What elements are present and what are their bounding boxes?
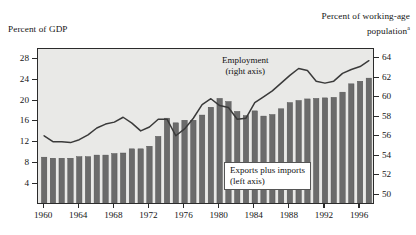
left-tick-mark [32,100,37,101]
left-tick-label-28: 28 [7,53,29,63]
x-tick-label-1968: 1968 [93,210,133,220]
right-tick-mark [374,174,379,175]
x-tick-label-1976: 1976 [164,210,204,220]
right-tick-mark [374,155,379,156]
right-tick-mark [374,194,379,195]
plot-svg [38,49,374,204]
left-tick-mark [32,162,37,163]
bar [68,158,73,204]
bar [217,98,222,204]
legend-employment: Employment (right axis) [222,55,269,76]
bar [366,78,371,204]
bar [270,115,275,204]
legend-employment-line1: Employment [222,55,269,66]
right-tick-mark [374,96,379,97]
right-tick-label-62: 62 [382,72,404,82]
x-tick-label-1972: 1972 [128,210,168,220]
left-tick-mark [32,141,37,142]
bar [261,116,266,204]
bar [120,153,125,204]
right-tick-label-56: 56 [382,130,404,140]
bar [182,120,187,204]
bar [77,157,82,204]
x-tick-label-1964: 1964 [58,210,98,220]
left-tick-label-16: 16 [7,115,29,125]
bar [112,154,117,204]
left-tick-label-12: 12 [7,136,29,146]
right-tick-mark [374,135,379,136]
plot-area [37,48,374,204]
left-tick-label-8: 8 [7,157,29,167]
bar [85,157,90,204]
x-tick-mark [323,204,324,208]
x-tick-mark [43,204,44,208]
bar [59,158,64,204]
bar [243,116,248,204]
legend-exports-line2: (left axis) [230,176,305,187]
bar [322,98,327,204]
left-tick-mark [32,120,37,121]
right-tick-label-54: 54 [382,150,404,160]
footnote-marker: a [407,25,410,31]
left-tick-mark [32,183,37,184]
employment-line [44,61,369,143]
bar [103,155,108,204]
bar [147,146,152,204]
x-tick-mark [113,204,114,208]
x-tick-mark [358,204,359,208]
right-tick-label-60: 60 [382,91,404,101]
right-tick-label-50: 50 [382,189,404,199]
right-tick-label-52: 52 [382,169,404,179]
x-tick-mark [183,204,184,208]
bar [199,115,204,204]
bar [41,157,46,204]
bar [340,92,345,204]
left-axis-title: Percent of GDP [8,24,68,34]
bar [138,149,143,204]
bar [156,136,161,204]
bar [331,97,336,204]
bar [50,158,55,204]
x-tick-label-1960: 1960 [23,210,63,220]
x-tick-mark [148,204,149,208]
x-tick-mark [78,204,79,208]
left-tick-label-20: 20 [7,95,29,105]
bar [208,107,213,204]
left-tick-label-4: 4 [7,178,29,188]
bar [313,98,318,204]
right-tick-label-58: 58 [382,111,404,121]
right-axis-title: Percent of working-age populationa [322,11,410,37]
right-axis-title-line1: Percent of working-age [322,11,410,21]
bar [252,111,257,204]
x-tick-label-1996: 1996 [339,210,379,220]
right-tick-mark [374,57,379,58]
x-tick-label-1992: 1992 [304,210,344,220]
legend-exports: Exports plus imports (left axis) [224,162,311,190]
bar [191,120,196,204]
left-tick-mark [32,58,37,59]
x-tick-mark [253,204,254,208]
bar [235,111,240,204]
bar [349,84,354,204]
bar [164,118,169,204]
x-tick-label-1980: 1980 [199,210,239,220]
x-tick-label-1984: 1984 [234,210,274,220]
right-tick-label-64: 64 [382,52,404,62]
right-tick-mark [374,116,379,117]
legend-exports-line1: Exports plus imports [230,165,305,176]
bar [357,81,362,204]
bar [94,155,99,204]
left-tick-label-24: 24 [7,74,29,84]
left-tick-mark [32,79,37,80]
x-tick-label-1988: 1988 [269,210,309,220]
x-tick-mark [288,204,289,208]
legend-employment-line2: (right axis) [222,66,269,77]
x-tick-mark [218,204,219,208]
right-axis-title-line2: populationa [322,23,410,38]
figure-chart: Percent of GDP Percent of working-age po… [0,0,416,235]
bar [129,149,134,204]
right-tick-mark [374,77,379,78]
